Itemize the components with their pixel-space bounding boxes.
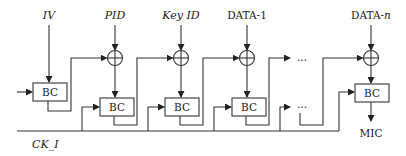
svg-text:BC: BC xyxy=(174,101,190,113)
xor-icon xyxy=(108,51,123,66)
iv-label: IV xyxy=(42,9,56,22)
clock-tap xyxy=(280,107,290,131)
ellipsis-bottom: ... xyxy=(297,98,307,110)
clock-label: CK_I xyxy=(32,138,59,151)
key-id-label: Key ID xyxy=(161,9,199,22)
mic-label: MIC xyxy=(360,127,383,139)
clock-tap xyxy=(148,107,164,131)
ellipsis-top: ... xyxy=(297,51,307,63)
clock-tap xyxy=(214,107,231,131)
cbc-mac-diagram: IV PID Key ID DATA-1 DATA-n ... ... xyxy=(0,0,406,156)
block-cipher-4: BC xyxy=(232,98,266,116)
clock-tap xyxy=(82,107,99,131)
block-cipher-3: BC xyxy=(165,98,199,116)
svg-text:BC: BC xyxy=(364,87,380,99)
svg-text:BC: BC xyxy=(241,101,257,113)
svg-text:BC: BC xyxy=(42,86,58,98)
block-cipher-1: BC xyxy=(33,83,67,101)
block-cipher-5: BC xyxy=(355,84,389,102)
xor-icon xyxy=(174,51,189,66)
pid-label: PID xyxy=(104,9,126,22)
clock-tap xyxy=(339,92,354,131)
block-cipher-2: BC xyxy=(100,98,134,116)
xor-icon xyxy=(240,51,255,66)
svg-text:BC: BC xyxy=(109,101,125,113)
data-n-label: DATA-n xyxy=(351,9,391,21)
xor-icon xyxy=(364,51,379,66)
data-1-label: DATA-1 xyxy=(227,9,267,21)
